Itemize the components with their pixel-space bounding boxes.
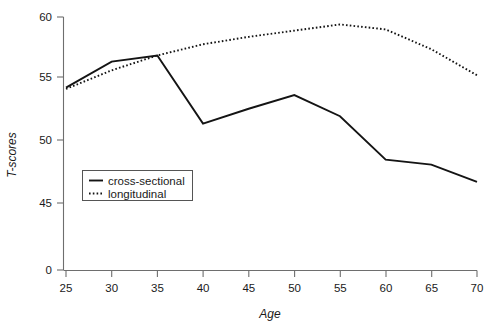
x-tick-label-40: 40 [197,282,210,294]
y-tick-label-60: 60 [39,11,52,23]
series-cross-sectional-line [66,55,477,181]
x-axis-ticks [66,271,477,278]
x-tick-label-65: 65 [425,282,438,294]
chart-legend: cross-sectional longitudinal [83,171,193,201]
y-tick-label-45: 45 [39,197,52,209]
x-tick-label-30: 30 [105,282,118,294]
x-tick-label-70: 70 [471,282,484,294]
x-tick-label-45: 45 [242,282,255,294]
x-tick-label-50: 50 [288,282,301,294]
legend-label-longitudinal: longitudinal [108,188,166,200]
y-axis-ticks [57,17,64,270]
y-tick-label-55: 55 [39,71,52,83]
chart-container: 60 55 50 45 0 25 30 35 40 45 50 55 60 65… [0,0,492,330]
x-tick-label-35: 35 [151,282,164,294]
x-axis-title: Age [258,307,281,321]
series-longitudinal-line [66,24,477,88]
x-tick-label-60: 60 [380,282,393,294]
x-tick-label-55: 55 [334,282,347,294]
x-tick-label-25: 25 [60,282,73,294]
line-chart: 60 55 50 45 0 25 30 35 40 45 50 55 60 65… [0,0,492,330]
y-tick-label-0: 0 [46,264,52,276]
legend-label-cross-sectional: cross-sectional [108,175,185,187]
y-axis-title: T-scores [5,132,19,178]
y-tick-label-50: 50 [39,134,52,146]
